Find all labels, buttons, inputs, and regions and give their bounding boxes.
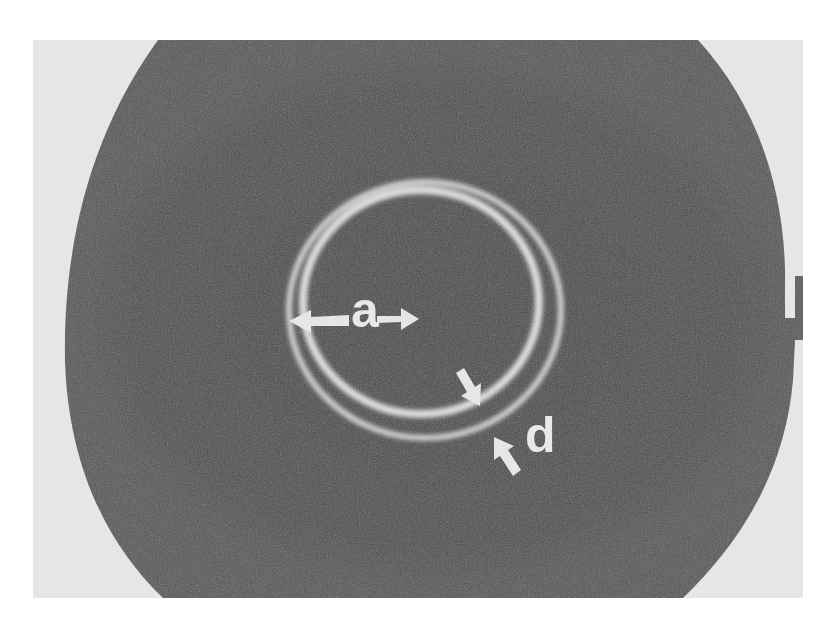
dark-disc xyxy=(65,40,803,598)
disc-image xyxy=(33,40,803,598)
photograph: a d xyxy=(33,40,803,598)
width-label-d: d xyxy=(525,410,556,460)
radius-label-a: a xyxy=(351,285,379,335)
